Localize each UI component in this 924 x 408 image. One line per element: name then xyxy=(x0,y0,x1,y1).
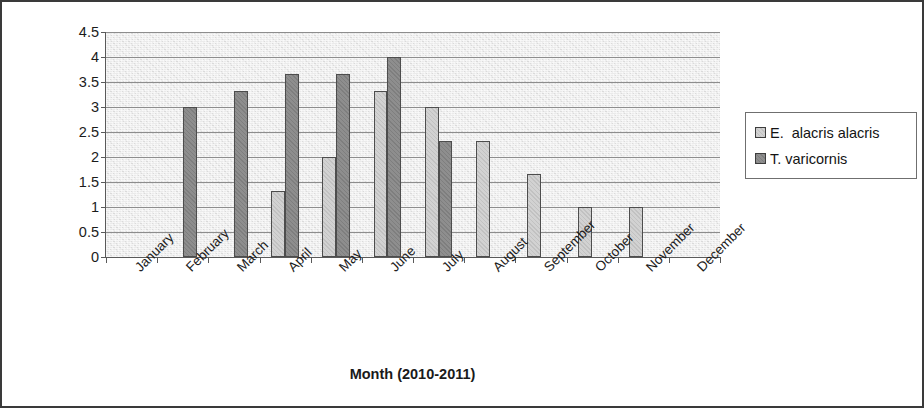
y-axis-tick-label: 1.5 xyxy=(79,174,99,190)
bar xyxy=(271,191,285,258)
bar xyxy=(336,74,350,258)
bar xyxy=(322,157,336,257)
bar-chart-figure: No. of individual/15m2 00.511.522.533.54… xyxy=(0,0,924,408)
bar xyxy=(439,141,453,258)
gridline xyxy=(106,157,720,158)
y-axis-tick-mark xyxy=(101,132,106,133)
bar xyxy=(183,107,197,257)
bar xyxy=(425,107,439,257)
gridline xyxy=(106,132,720,133)
y-axis-tick-label: 4 xyxy=(91,49,99,65)
bar xyxy=(374,91,388,258)
y-axis-tick-mark xyxy=(101,182,106,183)
y-axis-tick-mark xyxy=(101,57,106,58)
y-axis-tick-mark xyxy=(101,82,106,83)
y-axis-tick-label: 1 xyxy=(91,199,99,215)
x-axis-tick-mark xyxy=(106,257,107,263)
y-axis-tick-mark xyxy=(101,207,106,208)
y-axis-tick-label: 3.5 xyxy=(79,74,99,90)
bar xyxy=(629,207,643,257)
gridline xyxy=(106,107,720,108)
y-axis-tick-label: 2.5 xyxy=(79,124,99,140)
plot-area: 00.511.522.533.544.5 xyxy=(105,32,720,258)
bar xyxy=(234,91,248,258)
y-axis-tick-mark xyxy=(101,32,106,33)
y-axis-tick-mark xyxy=(101,232,106,233)
x-axis-category-labels: JanuaryFebruaryMarchAprilMayJuneJulyAugu… xyxy=(105,264,720,360)
legend-item[interactable]: T. varicornis xyxy=(755,148,908,169)
legend-item-label: E. alacris alacris xyxy=(770,125,880,141)
legend-swatch-icon xyxy=(755,153,766,164)
x-axis-title: Month (2010-2011) xyxy=(105,366,720,382)
y-axis-tick-mark xyxy=(101,157,106,158)
bar xyxy=(285,74,299,258)
legend-swatch-icon xyxy=(755,127,766,138)
y-axis-tick-mark xyxy=(101,107,106,108)
bar xyxy=(387,57,401,257)
y-axis-tick-label: 0.5 xyxy=(79,224,99,240)
y-axis-tick-label: 2 xyxy=(91,149,99,165)
y-axis-tick-label: 0 xyxy=(91,249,99,265)
gridline xyxy=(106,82,720,83)
gridline xyxy=(106,57,720,58)
bar xyxy=(476,141,490,258)
y-axis-tick-label: 3 xyxy=(91,99,99,115)
legend-item-label: T. varicornis xyxy=(770,151,847,167)
gridline xyxy=(106,32,720,33)
y-axis-tick-label: 4.5 xyxy=(79,24,99,40)
gridline xyxy=(106,207,720,208)
legend-item[interactable]: E. alacris alacris xyxy=(755,122,908,143)
gridline xyxy=(106,182,720,183)
chart-legend: E. alacris alacrisT. varicornis xyxy=(745,112,917,179)
